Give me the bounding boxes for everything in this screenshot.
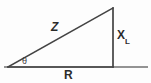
label-xl-base: X xyxy=(117,28,125,42)
label-xl-subscript: L xyxy=(125,37,130,46)
label-phase-angle-theta: θ xyxy=(22,57,27,66)
label-resistance-r: R xyxy=(64,69,73,81)
label-reactance-xl: XL xyxy=(117,29,130,44)
label-impedance-z: Z xyxy=(51,21,58,33)
impedance-triangle-diagram: Z XL R θ xyxy=(0,0,151,83)
